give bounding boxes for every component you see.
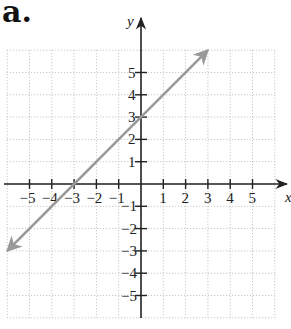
y-tick-label: −5 bbox=[121, 288, 137, 304]
x-tick-label: 3 bbox=[204, 190, 212, 206]
data-series bbox=[7, 50, 208, 251]
x-tick-label: −2 bbox=[86, 190, 102, 206]
coordinate-plane: xy −5−4−3−2−112345−5−4−3−2−112345 bbox=[0, 0, 291, 329]
axes: xy bbox=[4, 13, 291, 318]
y-axis-label: y bbox=[125, 13, 134, 29]
y-tick-label: −1 bbox=[121, 198, 137, 214]
y-tick-label: −2 bbox=[121, 221, 137, 237]
x-axis-label: x bbox=[284, 189, 291, 205]
y-tick-label: −3 bbox=[121, 243, 137, 259]
y-tick-label: 4 bbox=[128, 87, 136, 103]
x-tick-label: 2 bbox=[182, 190, 190, 206]
y-tick-label: 1 bbox=[128, 154, 136, 170]
line-graph bbox=[7, 50, 208, 251]
y-tick-label: 2 bbox=[128, 131, 136, 147]
x-tick-label: 1 bbox=[159, 190, 167, 206]
y-tick-label: −4 bbox=[121, 265, 137, 281]
x-tick-label: 4 bbox=[226, 190, 234, 206]
y-tick-label: 5 bbox=[128, 65, 136, 81]
x-tick-label: 5 bbox=[249, 190, 257, 206]
x-tick-label: −5 bbox=[20, 190, 36, 206]
